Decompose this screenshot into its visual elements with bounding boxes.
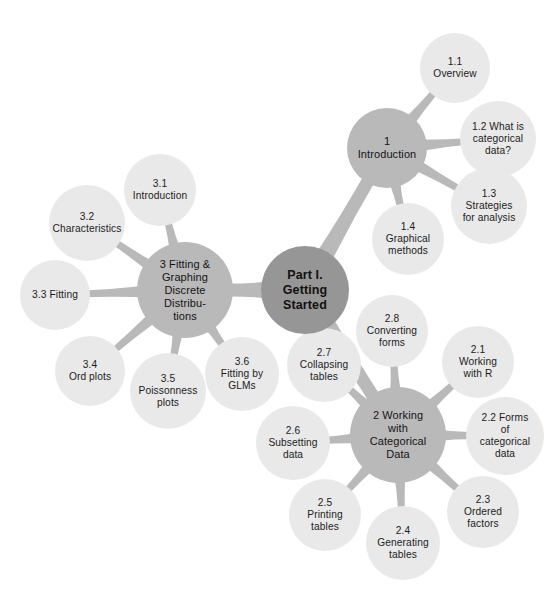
node-n-2-4[interactable]	[366, 506, 440, 580]
node-n-1-4[interactable]	[372, 203, 444, 275]
node-n-1-1[interactable]	[420, 33, 490, 103]
node-n-2-7[interactable]	[287, 328, 361, 402]
node-sec-1[interactable]	[347, 108, 427, 188]
node-n-2-2[interactable]	[466, 397, 544, 475]
node-n-2-8[interactable]	[356, 295, 428, 367]
mind-map-canvas: 1.1 Overview1.2 What is categorical data…	[0, 0, 558, 595]
node-n-3-4[interactable]	[55, 336, 125, 406]
node-n-2-6[interactable]	[256, 406, 330, 480]
node-sec-2[interactable]	[350, 387, 446, 483]
node-n-3-3[interactable]	[20, 260, 90, 330]
node-sec-3[interactable]	[137, 242, 233, 338]
node-n-2-1[interactable]	[442, 326, 514, 398]
mind-map-shapes	[0, 0, 558, 595]
node-n-1-2[interactable]	[460, 101, 536, 177]
node-n-2-5[interactable]	[289, 479, 361, 551]
node-root[interactable]	[261, 246, 349, 334]
node-n-3-5[interactable]	[130, 353, 206, 429]
node-n-1-3[interactable]	[451, 168, 527, 244]
node-n-2-3[interactable]	[447, 476, 519, 548]
node-n-3-1[interactable]	[124, 154, 196, 226]
node-n-3-2[interactable]	[49, 185, 125, 261]
node-n-3-6[interactable]	[205, 337, 279, 411]
